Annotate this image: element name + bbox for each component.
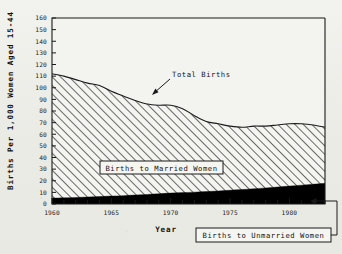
x-tick-label: 1960 [44,209,60,216]
x-axis-title: Year [155,225,177,234]
y-tick-label: 130 [35,49,47,56]
y-tick-label: 50 [39,142,47,149]
x-tick-label: 1980 [282,209,298,216]
y-tick-label: 120 [35,61,47,68]
y-tick-label: 160 [35,14,47,21]
y-axis-title: Births Per 1,000 Women Aged 15-44 [6,11,15,190]
y-tick-label: 60 [39,131,47,138]
y-tick-label: 140 [35,38,47,45]
y-tick-label: 110 [35,72,47,79]
x-tick-label: 1970 [163,209,179,216]
x-tick-label: 1975 [222,209,238,216]
y-tick-label: 70 [39,119,47,126]
y-tick-label: 100 [35,84,47,91]
y-tick-label: 0 [43,200,47,207]
x-axis-tick-labels: 19601965197019751980 [44,209,297,216]
annotation-births-to-married-women: Births to Married Women [100,161,223,174]
married-women-label: Births to Married Women [105,164,217,173]
y-tick-label: 40 [39,154,47,161]
y-tick-label: 10 [39,189,47,196]
y-tick-label: 30 [39,165,47,172]
y-axis-tick-labels: 0102030405060708090100110120130140150160 [35,14,47,207]
total-births-label: Total Births [172,70,231,79]
y-tick-label: 80 [39,107,47,114]
unmarried-women-label: Births to Unmarried Women [203,231,325,240]
y-tick-label: 90 [39,96,47,103]
births-rate-area-chart: 0102030405060708090100110120130140150160… [0,0,342,254]
y-tick-label: 150 [35,26,47,33]
annotation-births-to-unmarried-women: Births to Unmarried Women [196,198,337,242]
y-tick-label: 20 [39,177,47,184]
chart-figure: 0102030405060708090100110120130140150160… [0,0,342,254]
x-tick-label: 1965 [103,209,119,216]
